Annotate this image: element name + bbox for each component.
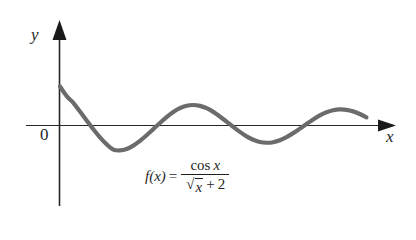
formula-numerator: cosx [186,157,224,174]
formula-fraction: cosx √x + 2 [181,157,229,195]
function-formula: f(x) = cosx √x + 2 [145,157,229,195]
formula-denominator: √x + 2 [181,175,229,195]
formula-constant: 2 [218,176,226,192]
formula-equals-sign: = [169,168,177,185]
formula-left-hand-side: f(x) [145,168,166,185]
formula-plus-sign: + [206,176,214,192]
square-root-icon: √x [185,177,203,195]
y-axis-label: y [31,26,39,43]
origin-label: 0 [40,126,49,143]
x-axis-label: x [386,128,394,145]
formula-numerator-function: cos [190,157,210,173]
formula-numerator-variable: x [213,157,220,173]
formula-radicand: x [195,178,204,195]
radical-sign: √ [186,177,194,195]
